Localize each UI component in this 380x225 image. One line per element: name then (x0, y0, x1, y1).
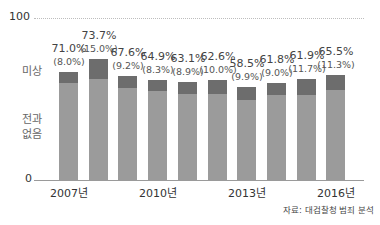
bar-2016 (326, 75, 345, 180)
data-label-main: 65.5% (314, 45, 358, 58)
bar-segment-unknown (148, 80, 167, 91)
bar-segment-no-record (267, 95, 286, 180)
bar-segment-no-record (178, 94, 197, 180)
bar-2015 (297, 79, 316, 180)
y-tick-0: 0 (0, 172, 32, 185)
data-label-main: 73.7% (77, 29, 121, 42)
data-label: 65.5%(11.3%) (314, 45, 358, 71)
bar-2012 (208, 80, 227, 180)
bar-2007 (59, 72, 78, 180)
x-tick-label: 2016년 (311, 184, 361, 200)
bar-segment-no-record (237, 100, 256, 180)
x-tick-label: 2013년 (222, 184, 272, 200)
bar-segment-unknown (118, 76, 137, 88)
bar-segment-no-record (59, 83, 78, 180)
bar-segment-unknown (297, 79, 316, 95)
x-tick-label: 2007년 (44, 184, 94, 200)
bar-segment-unknown (237, 87, 256, 100)
bar-2013 (237, 87, 256, 180)
bar-segment-no-record (297, 95, 316, 180)
legend-unknown: 미상 (22, 64, 42, 79)
legend-no-record-line1: 전과 (22, 112, 42, 127)
bar-2010 (148, 80, 167, 180)
bar-2008 (89, 59, 108, 180)
bar-segment-unknown (326, 75, 345, 90)
x-axis (34, 180, 364, 181)
source-note: 자료: 대검찰청 범죄 분석 (283, 203, 374, 215)
bar-segment-no-record (89, 79, 108, 180)
bar-2011 (178, 82, 197, 180)
bar-2009 (118, 76, 137, 180)
bar-segment-unknown (267, 83, 286, 95)
data-label-sub: (11.3%) (314, 58, 358, 71)
legend-no-record-line2: 없음 (22, 127, 42, 142)
bar-segment-unknown (178, 82, 197, 94)
bar-segment-no-record (118, 88, 137, 180)
bar-segment-no-record (326, 90, 345, 180)
y-tick-100: 100 (0, 10, 30, 23)
legend-no-record: 전과 없음 (22, 112, 42, 142)
bar-segment-no-record (148, 91, 167, 180)
bar-2014 (267, 83, 286, 180)
bar-segment-unknown (59, 72, 78, 83)
bar-segment-no-record (208, 94, 227, 180)
x-tick-label: 2010년 (133, 184, 183, 200)
gridline-100 (34, 18, 364, 19)
data-label-sub: (8.0%) (47, 55, 91, 68)
